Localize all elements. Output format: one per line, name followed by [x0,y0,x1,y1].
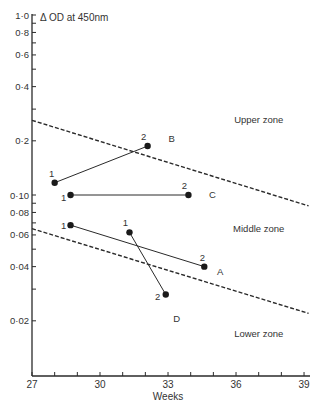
data-series: 12A12B12C12D [49,131,224,323]
y-tick-label: 0·2 [15,135,29,146]
x-tick-label: 30 [94,379,106,390]
lower-zone-label: Lower zone [234,328,283,339]
lower-boundary [32,229,309,314]
y-tick-label: 1·0 [15,10,29,21]
x-axis-label: Weeks [153,391,183,402]
zone-boundaries [32,120,309,313]
x-tick-label: 27 [26,379,38,390]
x-tick-label: 33 [162,379,174,390]
y-tick-label: 0·02 [10,315,29,326]
annotations: Upper zoneMiddle zoneLower zone [233,114,284,338]
y-tick-label: 0·4 [15,81,29,92]
axes: 1·00·80·60·40·20·100·080·060·040·0227303… [10,10,310,403]
data-point [126,229,132,235]
upper-zone-label: Upper zone [234,114,283,125]
series-a: 12A [61,220,224,276]
data-point [163,291,169,297]
point-label: 2 [141,131,146,142]
series-name-label: C [209,189,216,200]
y-axis-label: Δ OD at 450nm [40,12,108,23]
y-tick-label: 0·08 [10,207,29,218]
series-name-label: D [173,313,180,324]
point-label: 2 [182,180,187,191]
y-tick-label: 0·6 [15,49,29,60]
series-name-label: A [217,266,224,277]
chart: 1·00·80·60·40·20·100·080·060·040·0227303… [0,0,322,403]
data-point [201,263,207,269]
data-point [144,143,150,149]
data-point [51,180,57,186]
y-tick-label: 0·04 [10,261,29,272]
point-label: 1 [123,217,128,228]
point-label: 2 [200,252,205,263]
series-c: 12C [61,180,216,203]
point-label: 1 [49,168,54,179]
x-tick-label: 39 [298,379,310,390]
series-line [55,146,148,183]
y-tick-label: 0·8 [15,27,29,38]
data-point [67,222,73,228]
y-tick-label: 0·10 [10,190,29,201]
series-d: 12D [123,217,180,323]
data-point [185,192,191,198]
series-name-label: B [168,133,174,144]
point-label: 2 [155,291,160,302]
point-label: 1 [61,192,66,203]
middle-zone-label: Middle zone [233,223,284,234]
series-line [129,232,165,294]
x-tick-label: 36 [230,379,242,390]
data-point [67,192,73,198]
y-tick-label: 0·06 [10,229,29,240]
point-label: 1 [61,220,66,231]
